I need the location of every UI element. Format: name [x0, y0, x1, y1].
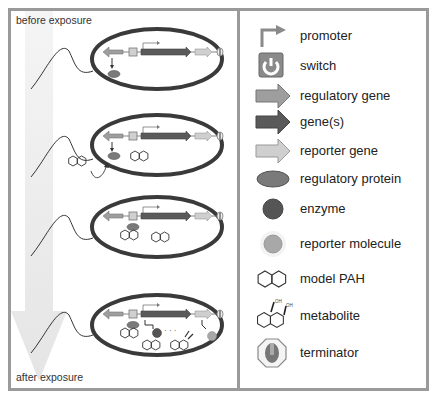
exposure-gradient-arrow — [11, 11, 67, 381]
legend-panel: promoter switch regulatory gene gene(s) — [240, 11, 426, 388]
left-panel-stages: · · · before exposure after exposure — [11, 11, 237, 388]
legend-item-reporter-gene: reporter gene — [240, 136, 426, 166]
terminator-icon — [254, 338, 294, 368]
promoter-icon — [254, 21, 294, 51]
reporter-gene-icon — [254, 136, 294, 166]
legend-item-genes: gene(s) — [240, 107, 426, 137]
stages-illustration: · · · — [11, 11, 237, 388]
stage-1 — [31, 29, 223, 89]
metabolite-icon: OHOH — [254, 298, 294, 332]
stage-3 — [31, 197, 223, 257]
svg-text:· · ·: · · · — [164, 326, 176, 335]
enzyme-icon — [254, 194, 294, 224]
before-exposure-label: before exposure — [16, 14, 92, 26]
genes-icon — [254, 107, 294, 137]
legend-item-model-pah: model PAH — [240, 264, 426, 294]
diagram-frame: · · · before exposure after exposure pro… — [8, 8, 429, 391]
switch-icon — [254, 51, 294, 81]
after-exposure-label: after exposure — [16, 371, 83, 383]
stage-2 — [31, 115, 223, 178]
regulatory-protein-icon — [254, 164, 294, 194]
legend-item-enzyme: enzyme — [240, 194, 426, 224]
svg-text:OH: OH — [275, 299, 282, 304]
legend-item-promoter: promoter — [240, 21, 426, 51]
svg-text:OH: OH — [286, 303, 293, 308]
reporter-molecule-icon — [254, 229, 294, 259]
legend-item-regulatory-protein: regulatory protein — [240, 164, 426, 194]
legend-item-metabolite: OHOH metabolite — [240, 298, 426, 332]
legend-item-terminator: terminator — [240, 338, 426, 368]
legend-item-switch: switch — [240, 51, 426, 81]
legend-item-reporter-molecule: reporter molecule — [240, 229, 426, 259]
model-pah-icon — [254, 264, 294, 294]
